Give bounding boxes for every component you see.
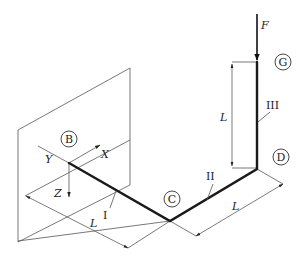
dim-line-bc	[26, 196, 128, 248]
point-d-marker: D	[273, 149, 289, 165]
segment-label-ii: II	[206, 170, 215, 183]
point-g-marker: G	[275, 54, 291, 70]
bent-bar-diagram: L L L F I II III X Y Z B C D G	[0, 0, 307, 264]
segment-label-iii: III	[266, 99, 279, 112]
y-axis-line	[38, 146, 69, 163]
point-g-label: G	[279, 56, 288, 69]
x-axis-arrow	[69, 145, 100, 163]
leader-iii	[258, 112, 270, 122]
axis-label-z: Z	[53, 187, 62, 200]
point-b-marker: B	[61, 131, 77, 147]
point-c-label: C	[168, 193, 176, 206]
dim-ext-c2	[170, 221, 196, 236]
dim-label-bc: L	[89, 217, 97, 230]
axis-label-x: X	[100, 148, 110, 161]
point-d-label: D	[277, 151, 286, 164]
wall-plane	[18, 68, 130, 242]
dim-label-dg: L	[219, 111, 227, 124]
segment-label-i: I	[103, 209, 107, 222]
point-c-marker: C	[164, 191, 180, 207]
dim-ext-d	[257, 169, 283, 184]
point-b-label: B	[65, 133, 73, 146]
dim-line-cd	[196, 184, 283, 236]
axis-label-y: Y	[45, 153, 54, 166]
dim-ext-c	[128, 221, 170, 248]
dim-label-cd: L	[231, 200, 239, 213]
load-f-label: F	[260, 19, 269, 32]
